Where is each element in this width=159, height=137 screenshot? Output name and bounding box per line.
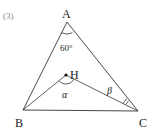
- vertex-label-c: C: [139, 116, 147, 130]
- triangle-abc: [23, 22, 138, 111]
- angle-label-c: β: [106, 85, 112, 96]
- triangle-diagram: (3) A 60° H α β B C: [0, 0, 159, 137]
- angle-arc-c-outer: [123, 99, 127, 104]
- angle-arc-a: [62, 33, 73, 34]
- point-h: [64, 73, 67, 76]
- vertex-label-a: A: [62, 7, 71, 21]
- vertex-label-h: H: [70, 68, 79, 82]
- vertex-label-b: B: [15, 116, 23, 130]
- angle-label-h: α: [62, 89, 68, 100]
- angle-label-a: 60°: [60, 43, 73, 53]
- angle-arc-c-inner: [126, 101, 129, 105]
- problem-number: (3): [3, 11, 14, 21]
- segment-bh: [23, 75, 66, 110]
